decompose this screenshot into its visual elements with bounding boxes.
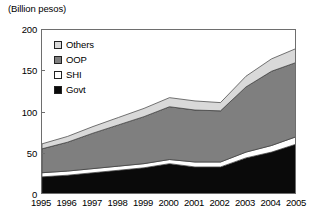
legend-label: Govt [66,85,86,95]
legend-label: Others [66,40,94,50]
legend-item-others: Others [54,38,130,52]
x-tick-label: 1998 [108,197,128,208]
x-tick-label: 1997 [82,197,102,208]
y-tick-label: 150 [5,65,37,76]
legend-item-shi: SHI [54,68,130,82]
chart-legend: OthersOOPSHIGovt [54,38,130,98]
legend-swatch-icon [54,41,62,49]
legend-swatch-icon [54,56,62,64]
y-tick-label: 200 [5,24,37,35]
legend-swatch-icon [54,86,62,94]
x-axis-labels: 1995199619971998199920002001200220032004… [0,197,319,213]
y-tick-label: 50 [5,147,37,158]
x-tick-label: 2004 [261,197,281,208]
x-tick-label: 2003 [235,197,255,208]
legend-swatch-icon [54,71,62,79]
legend-label: SHI [66,70,82,80]
y-tick-mark [41,153,45,154]
x-tick-label: 1996 [57,197,77,208]
x-tick-label: 1995 [31,197,51,208]
x-tick-label: 2005 [286,197,306,208]
y-tick-label: 100 [5,106,37,117]
legend-item-oop: OOP [54,53,130,67]
stacked-area-chart: (Billion pesos) 200150100500 19951996199… [0,0,319,224]
x-tick-label: 2000 [159,197,179,208]
legend-item-govt: Govt [54,83,130,97]
x-tick-label: 2002 [210,197,230,208]
x-tick-label: 2001 [184,197,204,208]
y-axis-labels: 200150100500 [3,0,37,224]
y-tick-mark [41,70,45,71]
legend-label: OOP [66,55,87,65]
x-tick-label: 1999 [133,197,153,208]
y-tick-mark [41,112,45,113]
